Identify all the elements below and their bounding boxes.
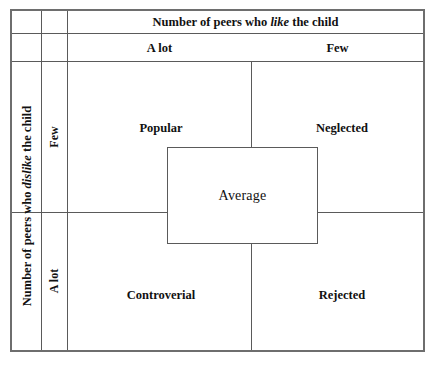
center-average-label: Average [219, 188, 267, 204]
left-axis-title-cell: Number of peers who dislike the child [12, 61, 41, 350]
column-divider-bottom-segment [251, 244, 252, 350]
left-axis-title-prefix: Number of peers who [20, 188, 34, 306]
left-axis-title: Number of peers who dislike the child [19, 61, 35, 350]
row-header-cell-few: Few [41, 61, 67, 212]
column-header-few: Few [252, 37, 423, 59]
quadrant-label-neglected: Neglected [277, 121, 407, 136]
left-axis-title-emphasis: dislike [20, 155, 34, 188]
row-header-a-lot: A lot [46, 221, 62, 341]
top-axis-title: Number of peers who like the child [68, 11, 423, 33]
row-divider-right-segment [318, 212, 423, 213]
sociometric-status-figure: Number of peers who like the child A lot… [10, 9, 425, 352]
left-axis-title-suffix: the child [20, 105, 34, 154]
quadrant-label-popular: Popular [96, 121, 226, 136]
row-header-few: Few [46, 77, 62, 197]
column-header-a-lot: A lot [68, 37, 251, 59]
row-header-column-divider [67, 11, 68, 350]
column-divider-top-segment [251, 61, 252, 147]
top-axis-title-suffix: the child [289, 15, 338, 29]
top-axis-title-prefix: Number of peers who [153, 15, 271, 29]
top-axis-title-emphasis: like [270, 15, 289, 29]
center-average-box: Average [167, 147, 318, 244]
row-header-cell-a-lot: A lot [41, 212, 67, 350]
quadrant-label-controversial: Controverial [96, 288, 226, 303]
header-rule-top [12, 33, 423, 34]
quadrant-label-rejected: Rejected [277, 288, 407, 303]
header-rule-subcolumns [12, 61, 423, 62]
